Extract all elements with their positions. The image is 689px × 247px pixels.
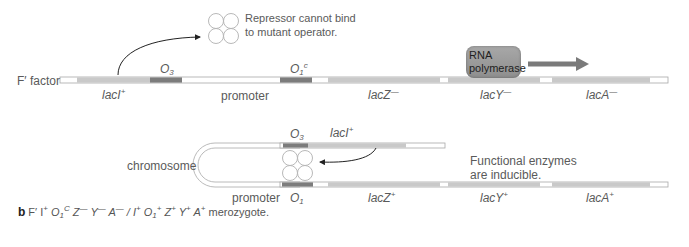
laci-gene-segment	[308, 143, 406, 147]
repressor-tetramer-icon	[209, 14, 239, 44]
rna-polymerase: RNA polymerase	[466, 46, 521, 78]
figure-caption: bF′ I+ O1C Z— Y— A— / I+ O1+ Z+ Y+ A+ me…	[18, 205, 269, 219]
repressor-note-line1: Repressor cannot bind	[245, 13, 356, 24]
repressor-binding-arrow	[320, 148, 376, 162]
o3-operator-segment	[283, 143, 308, 147]
lacy-gene-segment	[448, 182, 540, 186]
f-factor-dna	[60, 77, 668, 83]
laci-gene-segment	[77, 77, 150, 82]
lacz-label: lacZ—	[368, 89, 399, 101]
rnap-label-line1: RNA	[466, 46, 521, 62]
rnap-label-line2: polymerase	[466, 62, 521, 75]
panel-letter: b	[18, 205, 25, 219]
o3-operator-segment	[150, 77, 182, 82]
promoter-chrom-label: promoter	[232, 192, 280, 204]
o3-label: O3	[160, 63, 174, 75]
o3-chrom-label: O3	[290, 128, 304, 140]
lacz-gene-segment	[328, 77, 440, 82]
laci-chrom-label: lacI+	[330, 127, 353, 139]
promoter-label: promoter	[221, 90, 269, 102]
chromosome-label: chromosome	[127, 160, 196, 172]
repressor-note-line2: to mutant operator.	[245, 27, 337, 38]
lacz-chrom-label: lacZ+	[368, 192, 395, 204]
lacz-gene-segment	[328, 182, 440, 186]
enzyme-note-line2: are inducible.	[470, 169, 541, 181]
enzyme-note-line1: Functional enzymes	[470, 155, 577, 167]
f-factor-label: F′ factor	[17, 75, 60, 87]
o1-operator-segment	[282, 182, 313, 186]
transcription-arrow-icon	[528, 57, 589, 71]
o1c-operator-segment	[280, 77, 312, 82]
lacy-label: lacY—	[480, 89, 511, 101]
lacy-gene-segment	[448, 77, 540, 82]
laca-chrom-label: lacA+	[586, 192, 614, 204]
o1c-label: O1c	[290, 63, 308, 75]
laca-gene-segment	[552, 77, 650, 82]
repressor-production-arrow	[118, 37, 200, 75]
caption-genotype: F′ I+ O1C Z— Y— A— / I+ O1+ Z+ Y+ A+ mer…	[28, 206, 269, 218]
laci-label: lacI+	[102, 89, 125, 101]
bound-repressor-tetramer-icon	[283, 151, 313, 181]
chromosome-dna	[193, 143, 668, 187]
lacy-chrom-label: lacY+	[480, 192, 508, 204]
laca-label: lacA—	[586, 89, 617, 101]
laca-gene-segment	[552, 182, 650, 186]
o1-chrom-label: O1	[290, 192, 304, 204]
